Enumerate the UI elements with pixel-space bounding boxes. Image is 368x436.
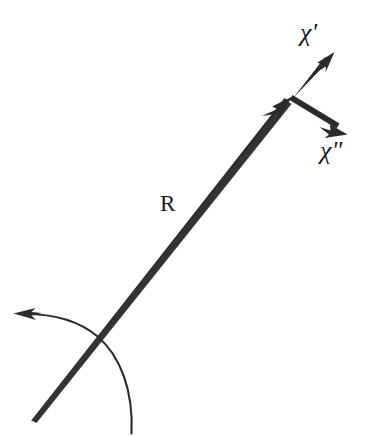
- chi-prime-label: χ': [300, 20, 317, 46]
- chi-prime-arrow: [292, 52, 335, 100]
- radius-vector-shaft-thick: [32, 100, 292, 423]
- chi-double-prime-label: χ": [320, 138, 342, 164]
- rotation-arc-arrowhead: [14, 308, 42, 320]
- vector-diagram-figure: χ' χ" R: [0, 0, 368, 436]
- diagram-canvas: [0, 0, 368, 436]
- chi-double-prime-shaft: [290, 95, 340, 129]
- radius-vector-arrow: [31, 97, 293, 424]
- radius-vector-label: R: [160, 192, 175, 215]
- chi-double-prime-arrow: [290, 95, 348, 138]
